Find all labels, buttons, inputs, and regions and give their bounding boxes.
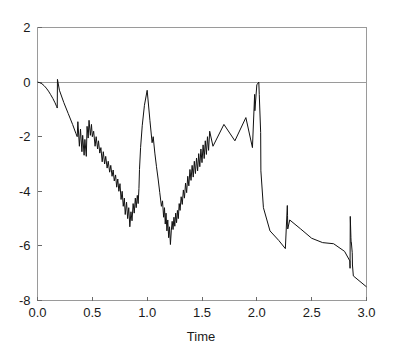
data-series-group: [38, 79, 367, 286]
plot-frame-rect: [38, 28, 367, 301]
x-tick-label: 0.5: [83, 305, 101, 320]
x-tick-label: 3.0: [357, 305, 375, 320]
y-tick-label: 0: [23, 75, 30, 90]
y-tick-label: -2: [19, 129, 31, 144]
y-axis-tick-labels: 20-2-4-6-8: [19, 20, 31, 308]
x-tick-label: 1.5: [193, 305, 211, 320]
plot-frame: [38, 28, 367, 301]
y-tick-label: -4: [19, 184, 31, 199]
y-tick-label: -8: [19, 293, 31, 308]
y-axis-ticks: [38, 28, 42, 301]
x-tick-label: 2.0: [248, 305, 266, 320]
y-tick-label: 2: [23, 20, 30, 35]
x-tick-label: 2.5: [303, 305, 321, 320]
x-tick-label: 0.0: [28, 305, 46, 320]
x-axis-tick-labels: 0.00.51.01.52.02.53.0: [28, 305, 375, 320]
chart-canvas: 0.00.51.01.52.02.53.0 20-2-4-6-8 Time: [0, 0, 407, 355]
chart-figure: 0.00.51.01.52.02.53.0 20-2-4-6-8 Time: [0, 0, 407, 355]
x-axis-title: Time: [187, 329, 215, 344]
x-axis-ticks: [38, 297, 367, 301]
data-series-line: [38, 79, 367, 286]
y-tick-label: -6: [19, 238, 31, 253]
x-tick-label: 1.0: [138, 305, 156, 320]
